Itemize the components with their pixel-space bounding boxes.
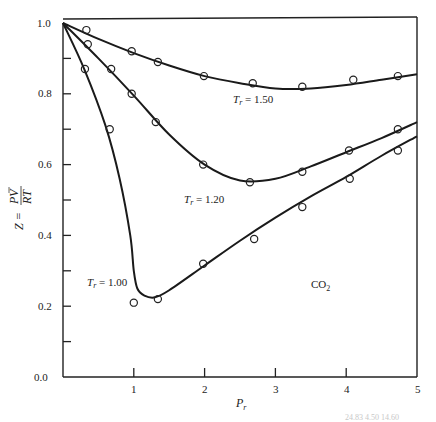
svg-text:RT: RT: [20, 189, 34, 205]
y-tick-label-0.8: 0.8: [38, 87, 52, 99]
curve-1.00: [63, 23, 417, 298]
annotation-tr-1.20: Tr = 1.20: [184, 193, 225, 207]
x-tick-label-4: 4: [344, 383, 350, 395]
x-tick-label-3: 3: [273, 383, 279, 395]
annotation-tr-1.50: Tr = 1.50: [233, 93, 274, 107]
plot-frame: [63, 17, 417, 377]
data-points: [81, 26, 401, 306]
y-tick-label-0.6: 0.6: [38, 158, 52, 170]
data-point-marker: [350, 76, 357, 83]
x-axis-label: Pr: [235, 396, 247, 412]
curve-1.50: [63, 23, 417, 89]
y-tick-label-0.4: 0.4: [38, 229, 52, 241]
annotation-tr-1.00: Tr = 1.00: [87, 276, 128, 290]
data-point-marker: [346, 175, 353, 182]
y-tick-label-0.2: 0.2: [38, 300, 52, 312]
y-tick-label-0: 0.0: [34, 371, 48, 383]
footer-fragment: 24.83 4.50 14.60: [345, 413, 399, 422]
svg-text:Z =: Z =: [12, 212, 26, 230]
top-border: [63, 17, 417, 19]
curves: [63, 23, 417, 298]
data-point-marker: [394, 147, 401, 154]
x-tick-label-2: 2: [202, 383, 208, 395]
compressibility-chart: 0.0 0.2 0.4 0.6 0.8 1.0 1 2 3 4 5 Pr Z =…: [0, 0, 436, 422]
data-point-marker: [251, 235, 258, 242]
y-tick-label-1.0: 1.0: [37, 17, 51, 29]
data-point-marker: [130, 299, 137, 306]
annotation-co2: CO2: [311, 278, 330, 293]
x-tick-label-1: 1: [131, 383, 137, 395]
y-axis-label: Z = PV RT: [7, 186, 34, 230]
data-point-marker: [299, 203, 306, 210]
y-ticks: [63, 58, 71, 341]
x-ticks: [134, 368, 346, 377]
x-tick-label-5: 5: [415, 383, 421, 395]
